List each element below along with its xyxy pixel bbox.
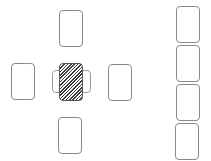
card-label — [59, 118, 60, 119]
card-slot-bottom[interactable] — [58, 117, 82, 154]
side-column-slot-2[interactable] — [176, 45, 200, 82]
card-label — [177, 46, 178, 47]
card-slot-right[interactable] — [108, 64, 132, 101]
side-column-slot-3[interactable] — [176, 84, 200, 121]
card-slot-left[interactable] — [11, 63, 35, 100]
deck-card-back[interactable] — [59, 63, 83, 101]
card-label — [12, 64, 13, 65]
card-slot-top[interactable] — [59, 10, 83, 47]
card-label — [177, 7, 178, 8]
card-label — [177, 85, 178, 86]
card-label — [176, 124, 177, 125]
card-label — [60, 64, 61, 65]
side-column-slot-4[interactable] — [175, 123, 199, 160]
game-board — [0, 0, 211, 161]
side-column-slot-1[interactable] — [176, 6, 200, 43]
card-label — [60, 11, 61, 12]
card-label — [109, 65, 110, 66]
